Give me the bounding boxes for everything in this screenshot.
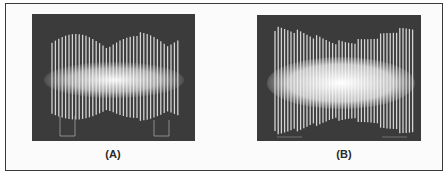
- panel-label-b: (B): [324, 148, 364, 160]
- oscilloscope-photo-a: [32, 14, 195, 141]
- waveform-b-graphic: [257, 15, 421, 141]
- waveform-a-graphic: [32, 14, 195, 141]
- oscilloscope-photo-b: [257, 15, 421, 141]
- panel-label-a: (A): [93, 148, 133, 160]
